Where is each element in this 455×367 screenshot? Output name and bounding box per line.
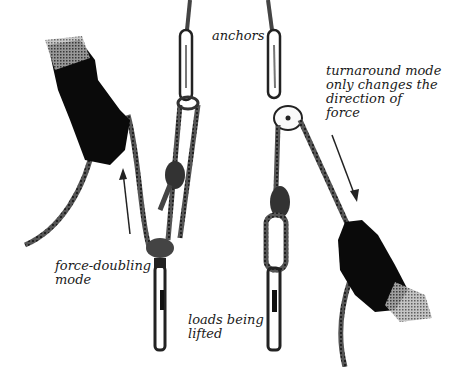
right-glove-icon (338, 220, 432, 322)
right-sling-loop (266, 215, 286, 270)
up-arrow-icon (119, 168, 130, 234)
force-doubling-mode-label: force-doubling mode (55, 259, 151, 287)
left-anchor-carabiner (180, 0, 192, 100)
down-arrow-icon (332, 135, 359, 202)
rope-pulley-diagram: anchors turnaround mode only changes the… (0, 0, 455, 367)
left-load-carabiner (155, 266, 165, 350)
left-glove-icon (45, 36, 130, 165)
anchors-label: anchors (212, 29, 265, 43)
loads-being-lifted-label: loads being lifted (188, 313, 264, 341)
right-load-carabiner (268, 268, 280, 350)
turnaround-mode-label: turnaround mode only changes the directi… (326, 64, 441, 120)
right-anchor-carabiner (268, 0, 280, 98)
